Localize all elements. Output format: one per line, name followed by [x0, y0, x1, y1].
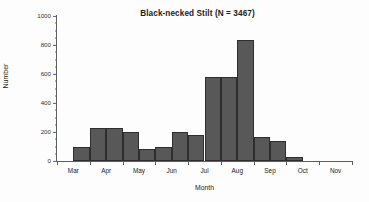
x-tick-mark — [57, 161, 58, 165]
y-minor-tick-mark — [55, 81, 58, 82]
x-tick-label-may: May — [133, 167, 145, 174]
y-minor-tick — [55, 146, 58, 147]
y-tick-800: 800 — [41, 42, 57, 48]
y-tick-400: 400 — [41, 100, 57, 106]
y-minor-tick-mark — [55, 66, 58, 67]
x-tick-mark — [319, 161, 320, 165]
x-tick-label-jun: Jun — [167, 167, 177, 174]
y-minor-tick-mark — [55, 146, 58, 147]
x-tick-label-nov: Nov — [330, 167, 341, 174]
y-tick-mark — [53, 131, 57, 132]
y-tick-200: 200 — [41, 129, 57, 135]
y-minor-tick — [55, 23, 58, 24]
bar-mar-16-31 — [73, 147, 89, 161]
y-minor-tick — [55, 59, 58, 60]
bar-aug-16-31 — [237, 40, 253, 161]
y-minor-tick — [55, 153, 58, 154]
bar-sep-1-15 — [254, 137, 270, 161]
y-minor-tick-mark — [55, 52, 58, 53]
y-minor-tick-mark — [55, 30, 58, 31]
bar-oct-1-15 — [286, 157, 302, 161]
y-minor-tick-mark — [55, 124, 58, 125]
x-tick-label-oct: Oct — [298, 167, 308, 174]
bar-jul-1-15 — [188, 135, 204, 161]
x-tick-mark — [286, 161, 287, 165]
bar-may-16-31 — [139, 149, 155, 161]
y-tick-label: 800 — [41, 42, 51, 48]
x-tick-mark — [254, 161, 255, 165]
y-tick-label: 0 — [48, 158, 51, 164]
bar-jun-16-30 — [172, 132, 188, 161]
x-tick-mark — [221, 161, 222, 165]
y-tick-label: 1000 — [37, 13, 51, 19]
y-minor-tick-mark — [55, 117, 58, 118]
y-minor-tick-mark — [55, 37, 58, 38]
x-axis-title: Month — [57, 184, 352, 191]
y-tick-1000: 1000 — [37, 13, 57, 19]
y-tick-0: 0 — [48, 158, 57, 164]
x-tick-label-apr: Apr — [101, 167, 111, 174]
y-tick-600: 600 — [41, 71, 57, 77]
y-minor-tick-mark — [55, 153, 58, 154]
plot-area: 02004006008001000 MarAprMayJunJulAugSepO… — [57, 16, 352, 161]
y-minor-tick-mark — [55, 59, 58, 60]
bar-jun-1-15 — [155, 147, 171, 162]
y-minor-tick-mark — [55, 88, 58, 89]
y-tick-mark — [53, 44, 57, 45]
y-tick-mark — [53, 102, 57, 103]
y-minor-tick — [55, 30, 58, 31]
bar-jul-16-31 — [205, 77, 221, 161]
y-minor-tick — [55, 81, 58, 82]
bar-aug-1-15 — [221, 77, 237, 161]
x-tick-mark — [90, 161, 91, 165]
x-tick-label-aug: Aug — [232, 167, 243, 174]
bar-sep-16-30 — [270, 141, 286, 161]
y-axis-title: Number — [2, 64, 9, 89]
chart-figure: Black-necked Stilt (N = 3467) Number 020… — [0, 0, 369, 202]
bar-apr-16-30 — [106, 128, 122, 161]
bar-may-1-15 — [123, 132, 139, 161]
y-tick-label: 200 — [41, 129, 51, 135]
y-minor-tick-mark — [55, 23, 58, 24]
y-minor-tick — [55, 95, 58, 96]
y-minor-tick — [55, 52, 58, 53]
y-tick-label: 400 — [41, 100, 51, 106]
y-minor-tick — [55, 110, 58, 111]
x-tick-label-mar: Mar — [68, 167, 79, 174]
y-minor-tick — [55, 124, 58, 125]
y-minor-tick — [55, 88, 58, 89]
x-tick-mark — [188, 161, 189, 165]
x-tick-mark — [155, 161, 156, 165]
y-minor-tick — [55, 37, 58, 38]
x-tick-label-sep: Sep — [264, 167, 275, 174]
x-tick-mark — [123, 161, 124, 165]
y-minor-tick-mark — [55, 95, 58, 96]
x-tick-label-jul: Jul — [200, 167, 208, 174]
y-minor-tick — [55, 139, 58, 140]
y-minor-tick-mark — [55, 110, 58, 111]
bar-apr-1-15 — [90, 128, 106, 161]
x-axis-line — [56, 161, 353, 162]
y-tick-mark — [53, 73, 57, 74]
x-tick-mark — [352, 161, 353, 165]
y-minor-tick — [55, 117, 58, 118]
y-minor-tick — [55, 66, 58, 67]
y-tick-label: 600 — [41, 71, 51, 77]
y-tick-mark — [53, 15, 57, 16]
y-minor-tick-mark — [55, 139, 58, 140]
